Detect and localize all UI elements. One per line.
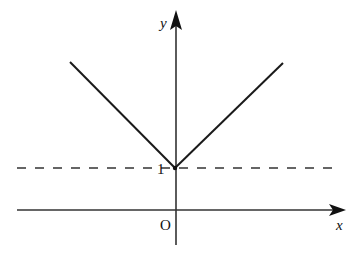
right-branch xyxy=(175,63,283,168)
y-axis-label: y xyxy=(158,15,167,31)
left-branch xyxy=(70,62,175,168)
x-axis-label: x xyxy=(335,217,343,233)
vertex-point xyxy=(173,166,177,170)
y-tick-label-1: 1 xyxy=(157,161,165,177)
origin-label: O xyxy=(160,217,171,233)
function-graph: y x O 1 xyxy=(0,0,364,257)
